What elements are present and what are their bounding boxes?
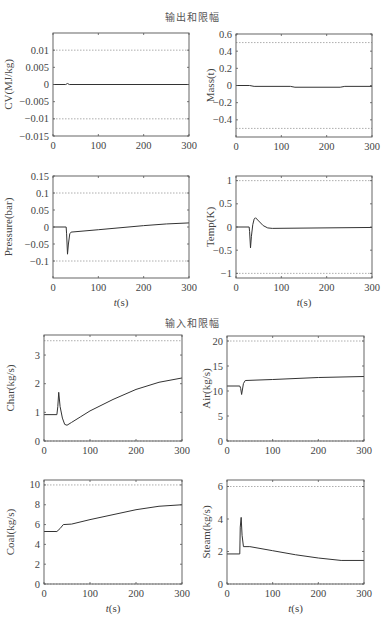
y-tick-label: 1	[227, 175, 232, 186]
y-tick-label: 4	[218, 514, 224, 525]
x-axis-label: t(s)	[297, 296, 312, 309]
air-curve	[227, 377, 364, 395]
temp-plot: 010020030010.50−0.5−1Temp(K)t(s)	[204, 175, 380, 309]
y-axis-label: Steam(kg/s)	[200, 505, 213, 558]
x-tick-label: 0	[50, 140, 55, 151]
x-tick-label: 0	[233, 141, 238, 152]
y-tick-label: 15	[213, 361, 224, 372]
x-tick-label: 200	[136, 140, 152, 151]
y-axis-label: Temp(K)	[204, 207, 217, 247]
y-tick-label: −0.01	[25, 113, 49, 124]
y-tick-label: 0.6	[219, 29, 232, 40]
y-tick-label: 2	[218, 546, 223, 557]
x-axis-label: t(s)	[288, 602, 303, 615]
axes-frame	[44, 335, 182, 441]
y-tick-label: 3	[35, 350, 40, 361]
y-tick-label: 0.005	[25, 62, 49, 73]
y-tick-label: 0.15	[31, 171, 49, 182]
cv-curve	[53, 83, 189, 84]
x-tick-label: 0	[233, 282, 238, 293]
x-tick-label: 100	[90, 140, 106, 151]
x-tick-label: 300	[181, 140, 197, 151]
y-axis-label: Char(kg/s)	[4, 364, 17, 411]
y-tick-label: 0	[227, 80, 232, 91]
x-tick-label: 200	[310, 445, 326, 456]
x-tick-label: 100	[82, 445, 98, 456]
coal-plot: 01002003001086420Coal(kg/s)t(s)	[4, 479, 190, 615]
x-tick-label: 0	[50, 282, 55, 293]
y-tick-label: 2	[35, 378, 40, 389]
x-tick-label: 200	[319, 141, 335, 152]
y-tick-label: 0	[44, 79, 49, 90]
y-axis-label: CV(MJ/kg)	[2, 59, 15, 110]
y-tick-label: 2	[35, 559, 40, 570]
axes-frame	[236, 176, 372, 278]
y-tick-label: 0	[35, 436, 40, 447]
x-tick-label: 300	[181, 282, 197, 293]
steam-curve	[227, 517, 364, 560]
y-tick-label: 0.5	[219, 198, 232, 209]
x-axis-label: t(s)	[106, 602, 121, 615]
axes-frame	[236, 34, 372, 137]
y-tick-label: 20	[213, 336, 224, 347]
y-tick-label: 10	[30, 479, 41, 490]
x-tick-label: 200	[310, 588, 326, 599]
x-tick-label: 0	[224, 588, 229, 599]
x-tick-label: 300	[356, 588, 372, 599]
mass-curve	[236, 86, 372, 88]
x-tick-label: 200	[128, 588, 144, 599]
x-tick-label: 0	[224, 445, 229, 456]
x-tick-label: 100	[265, 445, 281, 456]
x-axis-label: t(s)	[114, 296, 129, 309]
axes-frame	[227, 480, 364, 584]
pressure-curve	[53, 223, 189, 254]
x-tick-label: 200	[319, 282, 335, 293]
axes-frame	[44, 480, 182, 584]
y-tick-label: 0.4	[219, 46, 233, 57]
cv-plot: 01002003000.010.0050−0.005−0.01−0.015CV(…	[2, 33, 197, 151]
mass-plot: 01002003000.60.40.20−0.2−0.4Mass(t)	[204, 29, 380, 153]
y-tick-label: 8	[35, 499, 40, 510]
y-axis-label: Air(kg/s)	[200, 368, 213, 409]
y-tick-label: 6	[35, 519, 40, 530]
x-tick-label: 200	[128, 445, 144, 456]
x-tick-label: 100	[265, 588, 281, 599]
y-tick-label: 6	[218, 481, 223, 492]
axes-frame	[227, 336, 364, 441]
air-plot: 010020030020151050Air(kg/s)	[200, 336, 372, 457]
char-plot: 01002003003210Char(kg/s)	[4, 335, 190, 456]
x-tick-label: 100	[82, 588, 98, 599]
chart-grid: 01002003000.010.0050−0.005−0.01−0.015CV(…	[0, 0, 384, 626]
y-tick-label: 0.05	[31, 205, 49, 216]
axes-frame	[53, 176, 189, 278]
y-tick-label: 0	[227, 222, 232, 233]
y-tick-label: 5	[218, 411, 223, 422]
x-tick-label: 300	[174, 445, 190, 456]
x-tick-label: 100	[273, 141, 289, 152]
x-tick-label: 300	[174, 588, 190, 599]
y-tick-label: 0	[44, 222, 49, 233]
x-tick-label: 300	[356, 445, 372, 456]
y-tick-label: −0.005	[19, 96, 49, 107]
y-tick-label: 4	[35, 539, 41, 550]
y-tick-label: 0.2	[219, 63, 232, 74]
y-tick-label: 0	[218, 579, 223, 590]
temp-curve	[236, 218, 372, 248]
x-tick-label: 100	[90, 282, 106, 293]
x-tick-label: 200	[136, 282, 152, 293]
y-tick-label: 0.01	[31, 45, 49, 56]
y-tick-label: 0.1	[36, 188, 49, 199]
pressure-plot: 01002003000.150.10.050−0.05−0.1Pressure(…	[2, 171, 197, 310]
x-tick-label: 300	[364, 282, 380, 293]
y-tick-label: 0	[218, 436, 223, 447]
char-curve	[44, 378, 182, 425]
y-axis-label: Coal(kg/s)	[4, 508, 17, 555]
x-tick-label: 0	[41, 445, 46, 456]
y-tick-label: 0	[35, 579, 40, 590]
y-tick-label: −0.015	[19, 131, 49, 142]
y-tick-label: −0.05	[25, 239, 49, 250]
x-tick-label: 100	[273, 282, 289, 293]
y-axis-label: Mass(t)	[204, 68, 217, 102]
y-axis-label: Pressure(bar)	[2, 197, 15, 256]
x-tick-label: 0	[41, 588, 46, 599]
